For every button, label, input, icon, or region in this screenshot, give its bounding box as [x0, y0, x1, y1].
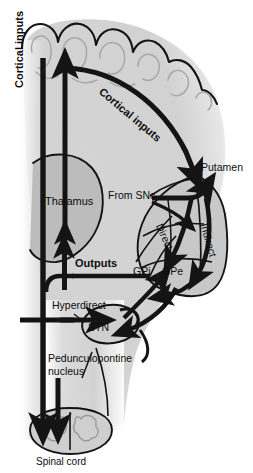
figure-canvas: Cortical inputs Cortical inputs Putamen …: [0, 0, 253, 473]
label-thalamus: Thalamus: [45, 196, 93, 208]
label-hyperdirect: Hyperdirect: [52, 300, 106, 311]
label-pedunculopontine-nucleus-line2: nucleus: [48, 366, 84, 377]
label-cortical-inputs-vertical: Cortical inputs: [14, 11, 26, 88]
label-stn: STN: [88, 322, 109, 333]
label-putamen: Putamen: [201, 162, 243, 173]
label-outputs: Outputs: [75, 258, 117, 270]
basal-ganglia-diagram-svg: [0, 0, 253, 473]
label-from-snc: From SNc: [108, 190, 155, 201]
label-pedunculopontine-nucleus-line1: Pedunculopontine: [48, 353, 132, 364]
label-spinal-cord: Spinal cord: [36, 457, 86, 468]
label-gpe: GPe: [162, 266, 183, 277]
label-gpi: GPi: [133, 266, 151, 277]
